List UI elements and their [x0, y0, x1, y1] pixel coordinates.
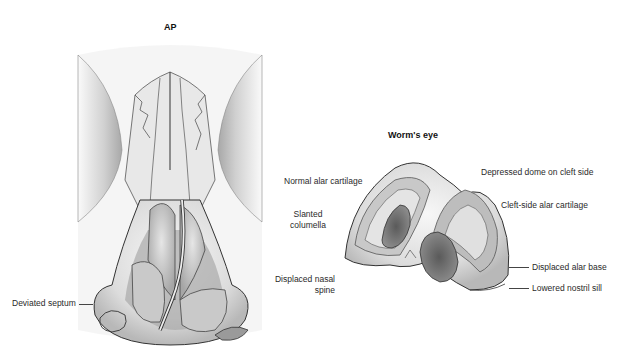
label-displaced-nasal-spine-line2: spine — [270, 285, 335, 296]
label-slanted-columella: Slanted columella — [286, 209, 330, 231]
label-slanted-columella-line2: columella — [286, 220, 330, 231]
label-displaced-nasal-spine: Displaced nasal spine — [270, 274, 335, 296]
leader-lowered-nostril-sill — [509, 288, 529, 289]
label-lowered-nostril-sill: Lowered nostril sill — [532, 283, 602, 294]
label-normal-alar-cartilage: Normal alar cartilage — [284, 176, 362, 187]
label-displaced-alar-base: Displaced alar base — [532, 262, 607, 273]
label-depressed-dome: Depressed dome on cleft side — [481, 167, 593, 178]
label-displaced-nasal-spine-line1: Displaced nasal — [270, 274, 335, 285]
leader-deviated-septum — [79, 304, 93, 305]
ap-view-drawing — [78, 45, 262, 345]
label-cleft-side-alar-cartilage: Cleft-side alar cartilage — [501, 200, 588, 211]
leader-displaced-alar-base — [509, 267, 529, 268]
label-slanted-columella-line1: Slanted — [286, 209, 330, 220]
worms-eye-view-drawing — [345, 163, 509, 291]
label-deviated-septum: Deviated septum — [12, 298, 76, 309]
